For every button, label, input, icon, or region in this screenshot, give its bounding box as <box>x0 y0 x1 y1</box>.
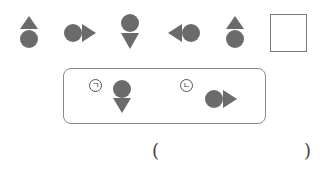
triangle-up-over-circle-icon <box>225 16 245 49</box>
pattern-item-1 <box>19 16 39 49</box>
empty-answer-box[interactable] <box>270 14 307 52</box>
pattern-item-4 <box>167 23 201 43</box>
choice-label-circle: ㄴ <box>180 79 193 92</box>
answer-open-paren: ( <box>152 142 159 160</box>
choice-label: ㄴ <box>183 81 190 90</box>
pattern-item-3 <box>120 14 140 50</box>
pattern-item-2 <box>63 23 97 43</box>
choice-option-1[interactable]: ㄱ <box>89 78 137 114</box>
choice-label: ㄱ <box>92 81 99 90</box>
pattern-item-5 <box>225 16 245 49</box>
answer-close-paren: ) <box>304 142 311 160</box>
circle-over-triangle-down-icon <box>112 80 132 114</box>
answer-blank[interactable] <box>165 142 300 162</box>
circle-over-triangle-down-icon <box>120 14 140 50</box>
choice-label-circle: ㄱ <box>89 79 102 92</box>
triangle-left-with-circle-icon <box>167 23 201 43</box>
circle-with-triangle-right-icon <box>204 89 238 109</box>
choice-option-2[interactable]: ㄴ <box>180 78 240 114</box>
circle-with-triangle-right-icon <box>63 23 97 43</box>
triangle-up-over-circle-icon <box>19 16 39 49</box>
